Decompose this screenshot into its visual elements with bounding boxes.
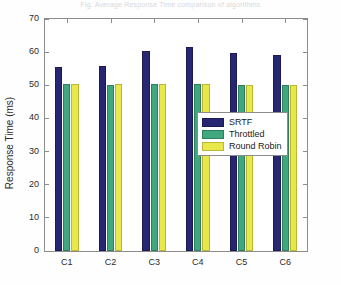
y-tick-mark <box>45 151 49 152</box>
bar-c5-round-robin <box>246 85 253 251</box>
bar-c6-round-robin <box>290 85 297 251</box>
bar-c2-round-robin <box>115 84 122 251</box>
x-tick-mark-top <box>242 19 243 23</box>
y-tick-label: 50 <box>29 79 39 89</box>
y-axis-label: Response Time (ms) <box>4 96 15 188</box>
legend-label: SRTF <box>229 118 252 127</box>
y-tick-mark <box>45 85 49 86</box>
y-tick-label: 40 <box>29 112 39 122</box>
bar-c1-srtf <box>55 67 62 251</box>
x-tick-label: C5 <box>236 257 248 267</box>
y-tick-mark <box>45 118 49 119</box>
legend-swatch-icon <box>202 118 224 127</box>
y-tick-mark-right <box>303 52 307 53</box>
legend-swatch-icon <box>202 130 224 139</box>
figure-title-faint: Fig. Average Response Time comparison of… <box>0 0 341 9</box>
plot-area: 010203040506070 C1C2C3C4C5C6 SRTFThrottl… <box>44 18 308 252</box>
x-tick-label: C6 <box>279 257 291 267</box>
y-tick-label: 60 <box>29 46 39 56</box>
y-tick-mark <box>45 19 49 20</box>
x-tick-mark-top <box>285 19 286 23</box>
y-tick-mark-right <box>303 217 307 218</box>
y-tick-mark <box>45 251 49 252</box>
figure-canvas: Fig. Average Response Time comparison of… <box>0 0 341 285</box>
x-tick-mark-top <box>111 19 112 23</box>
y-tick-mark <box>45 217 49 218</box>
bar-c2-throttled <box>107 85 114 251</box>
x-tick-label: C4 <box>192 257 204 267</box>
bar-c1-throttled <box>63 84 70 251</box>
y-tick-mark-right <box>303 184 307 185</box>
bar-c5-throttled <box>238 85 245 251</box>
legend-label: Round Robin <box>229 142 282 151</box>
y-tick-label: 30 <box>29 146 39 156</box>
x-tick-label: C1 <box>61 257 73 267</box>
y-tick-mark-right <box>303 19 307 20</box>
bar-c3-throttled <box>151 84 158 251</box>
legend-item-round-robin[interactable]: Round Robin <box>202 140 282 152</box>
legend-item-srtf[interactable]: SRTF <box>202 116 282 128</box>
bar-c6-throttled <box>282 85 289 251</box>
bar-c4-round-robin <box>202 84 209 251</box>
y-tick-mark <box>45 184 49 185</box>
x-tick-mark-top <box>198 19 199 23</box>
bar-c4-throttled <box>194 84 201 251</box>
x-tick-label: C2 <box>105 257 117 267</box>
y-tick-mark-right <box>303 151 307 152</box>
bar-c2-srtf <box>99 66 106 251</box>
y-tick-mark-right <box>303 85 307 86</box>
y-tick-label: 20 <box>29 179 39 189</box>
x-tick-label: C3 <box>148 257 160 267</box>
y-tick-mark-right <box>303 118 307 119</box>
legend-item-throttled[interactable]: Throttled <box>202 128 282 140</box>
legend-label: Throttled <box>229 130 265 139</box>
legend-box[interactable]: SRTFThrottledRound Robin <box>197 112 288 156</box>
y-tick-label: 70 <box>29 13 39 23</box>
bar-c3-srtf <box>142 51 149 251</box>
y-tick-mark <box>45 52 49 53</box>
y-tick-label: 0 <box>34 245 39 255</box>
legend-swatch-icon <box>202 142 224 151</box>
bar-c4-srtf <box>186 47 193 251</box>
x-tick-mark-top <box>67 19 68 23</box>
bar-c3-round-robin <box>159 84 166 251</box>
x-tick-mark-top <box>154 19 155 23</box>
bar-c1-round-robin <box>71 84 78 251</box>
y-tick-label: 10 <box>29 212 39 222</box>
y-tick-mark-right <box>303 251 307 252</box>
